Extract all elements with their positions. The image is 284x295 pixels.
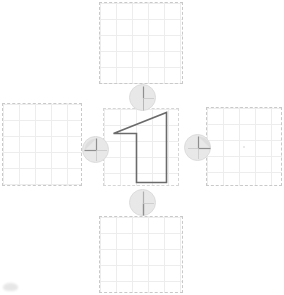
rotate-handle-top[interactable] xyxy=(129,84,156,111)
transform-canvas[interactable] xyxy=(0,0,284,295)
corner-smudge xyxy=(3,283,18,291)
panel-center-dot xyxy=(243,146,245,148)
rotate-handle-left[interactable] xyxy=(82,136,109,163)
left-grid-panel[interactable] xyxy=(2,103,82,186)
quarter-arc-up-right-icon xyxy=(185,135,212,162)
right-grid-panel[interactable] xyxy=(206,107,282,186)
bottom-grid-panel[interactable] xyxy=(99,216,183,293)
rotate-handle-bottom[interactable] xyxy=(129,189,156,216)
rotate-handle-right[interactable] xyxy=(184,134,211,161)
top-grid-panel[interactable] xyxy=(99,2,183,84)
clock-hand-down-icon xyxy=(130,190,157,217)
center-grid-panel[interactable] xyxy=(103,108,179,186)
clock-hand-up-icon xyxy=(130,85,157,112)
quarter-arc-up-left-icon xyxy=(83,137,110,164)
